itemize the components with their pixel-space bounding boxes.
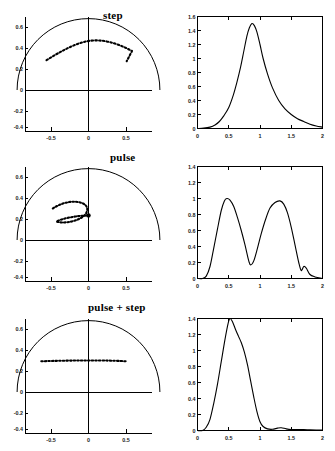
y-ticklabel: 1.2: [188, 332, 196, 338]
panel-pulse-step-trajectory: 0.6 0.4 0.2 0 -0.2 -0.4 -0.5 0 0.5: [0, 299, 168, 449]
velocity-curve: [198, 198, 323, 278]
x-ticklabel: 2: [321, 435, 324, 441]
x-ticklabel: 1.5: [288, 283, 296, 289]
y-ticklabel: 0: [193, 428, 196, 434]
step-trajectory-plot: 0.6 0.4 0.2 0 -0.2 -0.4 -0.5 0 0.5: [0, 0, 168, 150]
pulse-trajectory-plot: 0.6 0.4 0.2 0 -0.2 -0.4 -0.5 0 0.5: [0, 148, 168, 298]
x-ticklabel: 0: [196, 283, 199, 289]
plot-frame: [198, 17, 323, 129]
y-ticklabel: 0: [20, 237, 23, 243]
x-ticklabel: 0: [87, 135, 90, 141]
y-ticklabel: 0.2: [188, 112, 196, 118]
plot-frame: [198, 319, 323, 431]
x-ticklabel: 2: [321, 133, 324, 139]
y-ticklabel: 1.4: [188, 28, 196, 34]
y-ticklabel: 0.6: [16, 24, 24, 30]
panel-pulse-step-velocity: 1.4 1.2 1 0.8 0.6 0.4 0.2 0 0 0.5 1 1.5 …: [168, 299, 335, 449]
y-ticklabel: 1.4: [188, 164, 196, 170]
x-ticklabel: 0: [196, 435, 199, 441]
y-ticklabel: 0.8: [188, 70, 196, 76]
y-ticklabel: -0.2: [14, 258, 23, 264]
y-ticklabel: -0.4: [14, 124, 23, 130]
plot-frame: [198, 167, 323, 279]
y-ticklabel: 0: [20, 87, 23, 93]
panel-step-trajectory: 0.6 0.4 0.2 0 -0.2 -0.4 -0.5 0 0.5: [0, 0, 168, 150]
y-ticklabel: -0.4: [14, 274, 23, 280]
y-ticklabel: 0: [193, 126, 196, 132]
panel-pulse-velocity: 1.4 1.2 1 0.8 0.6 0.4 0.2 0 0 0.5 1 1.5 …: [168, 148, 335, 298]
x-ticklabel: 0: [87, 285, 90, 291]
y-ticklabel: -0.2: [14, 108, 23, 114]
y-ticklabel: 0.6: [16, 174, 24, 180]
y-ticklabel: 1: [193, 348, 196, 354]
x-ticklabel: 0: [196, 133, 199, 139]
pulse-step-velocity-plot: 1.4 1.2 1 0.8 0.6 0.4 0.2 0 0 0.5 1 1.5 …: [168, 299, 335, 449]
velocity-curve: [198, 318, 323, 430]
y-ticklabel: -0.4: [14, 426, 23, 432]
y-ticklabel: 1: [193, 196, 196, 202]
panel-pulse-trajectory: 0.6 0.4 0.2 0 -0.2 -0.4 -0.5 0 0.5: [0, 148, 168, 298]
hand-trajectory-dotted: [53, 202, 89, 223]
y-ticklabel: 0.8: [188, 364, 196, 370]
y-ticklabel: 0.4: [16, 195, 24, 201]
y-ticklabel: 0: [20, 389, 23, 395]
x-ticklabel: -0.5: [46, 437, 55, 443]
figure-row-step: step 0.6: [0, 0, 335, 150]
figure-container: step 0.6: [0, 0, 335, 451]
x-ticklabel: 1: [259, 283, 262, 289]
x-ticklabel: 0.5: [225, 435, 233, 441]
y-ticklabel: 0.4: [16, 45, 24, 51]
trajectory-endpoint-marker: [86, 213, 90, 217]
y-ticklabel: 0.4: [188, 396, 196, 402]
y-ticklabel: 1.6: [188, 14, 196, 20]
y-ticklabel: 0.4: [188, 244, 196, 250]
x-ticklabel: 0.5: [225, 133, 233, 139]
y-ticklabel: 1.2: [188, 42, 196, 48]
velocity-curve: [198, 23, 323, 128]
pulse-step-trajectory-plot: 0.6 0.4 0.2 0 -0.2 -0.4 -0.5 0 0.5: [0, 299, 168, 449]
y-ticklabel: 1: [193, 56, 196, 62]
x-ticklabel: 1.5: [288, 133, 296, 139]
x-ticklabel: -0.5: [46, 135, 55, 141]
x-ticklabel: -0.5: [46, 285, 55, 291]
x-ticklabel: 1: [259, 435, 262, 441]
y-ticklabel: 1.2: [188, 180, 196, 186]
y-ticklabel: 0.2: [188, 412, 196, 418]
y-ticklabel: 0.2: [188, 260, 196, 266]
y-ticklabel: 0.4: [188, 98, 196, 104]
y-ticklabel: 0.8: [188, 212, 196, 218]
y-ticklabel: -0.2: [14, 410, 23, 416]
hand-trajectory-dotted: [41, 360, 126, 361]
y-ticklabel: 0.6: [188, 228, 196, 234]
x-ticklabel: 0: [87, 437, 90, 443]
figure-row-pulse-step: pulse + step 0.6 0.4 0.2 0: [0, 299, 335, 449]
pulse-velocity-plot: 1.4 1.2 1 0.8 0.6 0.4 0.2 0 0 0.5 1 1.5 …: [168, 148, 335, 298]
y-ticklabel: 0.6: [16, 326, 24, 332]
x-ticklabel: 0.5: [225, 283, 233, 289]
y-ticklabel: 0.4: [16, 347, 24, 353]
y-ticklabel: 0.6: [188, 380, 196, 386]
y-ticklabel: 0: [193, 276, 196, 282]
figure-row-pulse: pulse 0.6 0.4 0.2 0 -0.2: [0, 148, 335, 298]
x-ticklabel: 0.5: [122, 285, 130, 291]
panel-step-velocity: 1.6 1.4 1.2 1 0.8 0.6 0.4 0.2 0 0 0.5 1 …: [168, 0, 335, 150]
x-ticklabel: 1.5: [288, 435, 296, 441]
x-ticklabel: 2: [321, 283, 324, 289]
y-ticklabel: 1.4: [188, 316, 196, 322]
x-ticklabel: 0.5: [122, 135, 130, 141]
step-velocity-plot: 1.6 1.4 1.2 1 0.8 0.6 0.4 0.2 0 0 0.5 1 …: [168, 0, 335, 150]
x-ticklabel: 0.5: [122, 437, 130, 443]
y-ticklabel: 0.6: [188, 84, 196, 90]
hand-trajectory-dotted: [47, 40, 133, 61]
x-ticklabel: 1: [259, 133, 262, 139]
